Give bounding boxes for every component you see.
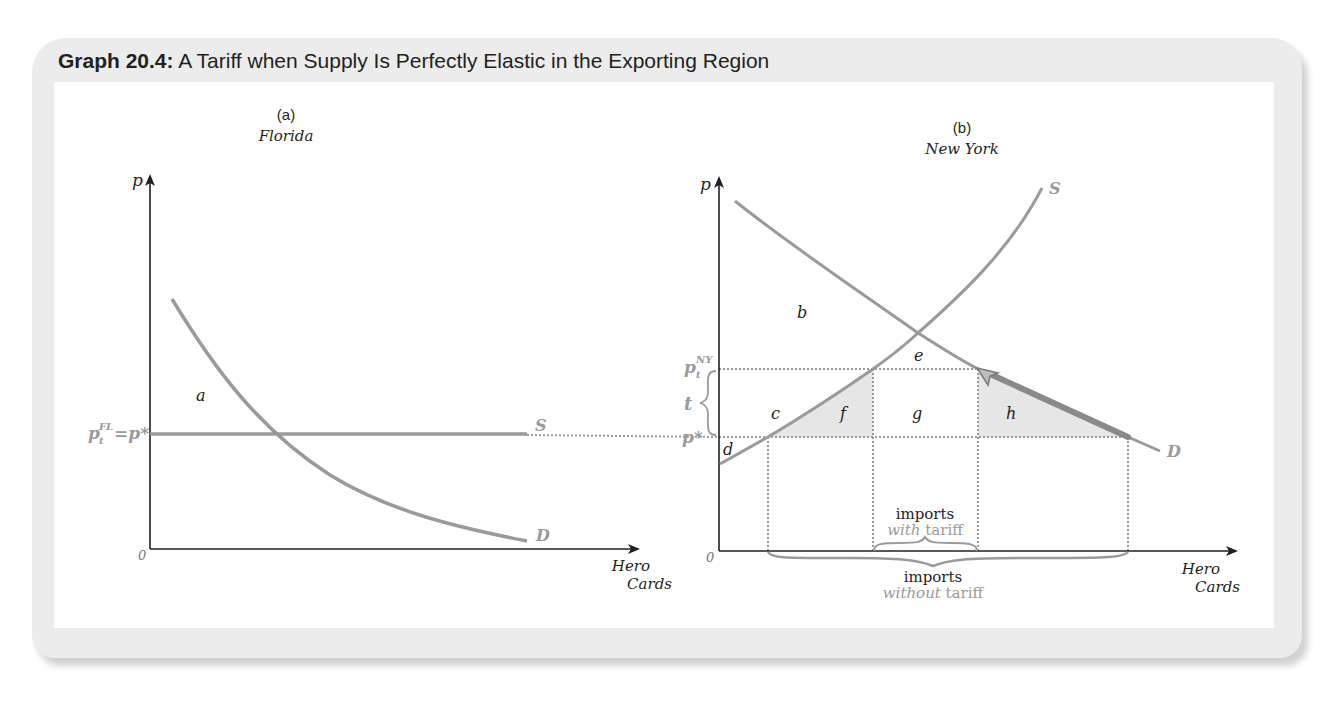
pt-ny-label-sub: t [696, 369, 701, 380]
tariff-brace [700, 371, 716, 435]
panel-b: (b) New York p 0 Hero Cards D S p NY t [682, 119, 1240, 602]
tariff-figure: (a) Florida p 0 Hero Cards S D p FL t =p… [0, 0, 1337, 717]
pt-ny-label-base: p [684, 357, 696, 377]
panel-b-letter: (b) [953, 119, 971, 136]
area-h-label: h [1006, 404, 1016, 423]
panel-b-y-label: p [700, 174, 711, 194]
pt-ny-label-sup: NY [695, 354, 713, 365]
panel-a: (a) Florida p 0 Hero Cards S D p FL t =p… [88, 106, 717, 593]
panel-a-x-label-2: Cards [627, 575, 672, 593]
area-e-label: e [914, 346, 923, 365]
imports-without-label-2: without tariff [883, 584, 985, 602]
panel-a-price-rest: =p* [114, 423, 149, 443]
imports-without-brace [768, 552, 1128, 566]
panel-b-demand-label: D [1166, 442, 1181, 461]
area-b-label: b [797, 303, 807, 322]
panel-a-x-label-1: Hero [611, 557, 650, 575]
area-d-label: d [723, 440, 733, 459]
panel-a-region: Florida [258, 127, 314, 145]
panel-a-demand-curve [172, 299, 527, 541]
pstar-label: p* [682, 427, 703, 447]
panel-b-region: New York [924, 140, 999, 158]
panel-a-demand-label: D [535, 526, 550, 545]
panel-a-price-sub: t [99, 435, 104, 446]
panel-a-area-a: a [196, 386, 206, 405]
panel-b-x-label-1: Hero [1181, 560, 1220, 578]
area-g-label: g [912, 404, 922, 423]
area-c-label: c [771, 404, 780, 423]
panel-b-demand-curve [735, 201, 1160, 451]
panel-b-supply-label: S [1049, 179, 1061, 198]
imports-with-brace [874, 537, 977, 551]
panel-a-origin: 0 [138, 548, 146, 563]
panel-a-supply-label: S [535, 416, 547, 435]
panel-a-y-label: p [132, 170, 143, 190]
tariff-label: t [684, 393, 693, 414]
panel-a-price-sup: FL [98, 421, 113, 432]
panel-b-x-label-2: Cards [1195, 578, 1240, 596]
panel-a-letter: (a) [277, 106, 295, 123]
panel-b-origin: 0 [706, 550, 714, 565]
